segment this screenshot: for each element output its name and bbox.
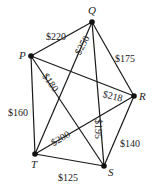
vertex-label-q: Q: [88, 4, 96, 16]
vertex-s: [101, 163, 107, 169]
weighted-graph-diagram: $220$250$175$195$218$180$160$200$140$125…: [0, 0, 152, 186]
edge-p-t: [31, 56, 35, 154]
vertex-label-t: T: [31, 158, 38, 170]
edge-weight-q-s: $195: [93, 119, 104, 139]
vertex-r: [131, 93, 137, 99]
edge-weight-q-t: $250: [72, 33, 91, 56]
vertex-labels-layer: QPRTS: [18, 4, 146, 178]
edge-weight-q-r: $175: [115, 53, 135, 64]
edge-r-s: [104, 96, 134, 166]
edge-weight-p-q: $220: [46, 31, 66, 42]
vertex-label-s: S: [108, 166, 114, 178]
edge-t-s: [35, 154, 104, 166]
vertex-q: [89, 19, 95, 25]
vertex-label-r: R: [138, 90, 146, 102]
edge-weight-t-s: $125: [58, 172, 78, 183]
edge-weight-p-t: $160: [8, 107, 28, 118]
edge-weight-r-s: $140: [120, 138, 140, 149]
edge-weight-t-r: $200: [49, 128, 72, 148]
vertex-p: [28, 53, 34, 59]
vertex-t: [32, 151, 38, 157]
edge-weight-p-s: $180: [40, 71, 60, 94]
vertex-label-p: P: [18, 49, 26, 61]
